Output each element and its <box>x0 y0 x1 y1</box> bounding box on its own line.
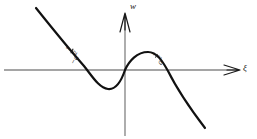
right-arrow-icon <box>224 65 240 75</box>
w-axis-label: w <box>130 2 136 11</box>
up-arrow-icon <box>120 13 130 32</box>
xi-axis-label: ξ <box>243 64 247 73</box>
figure-canvas: w ξ −a12 a12 <box>0 0 257 139</box>
plot-svg <box>0 0 257 139</box>
cubic-curve <box>36 8 205 128</box>
